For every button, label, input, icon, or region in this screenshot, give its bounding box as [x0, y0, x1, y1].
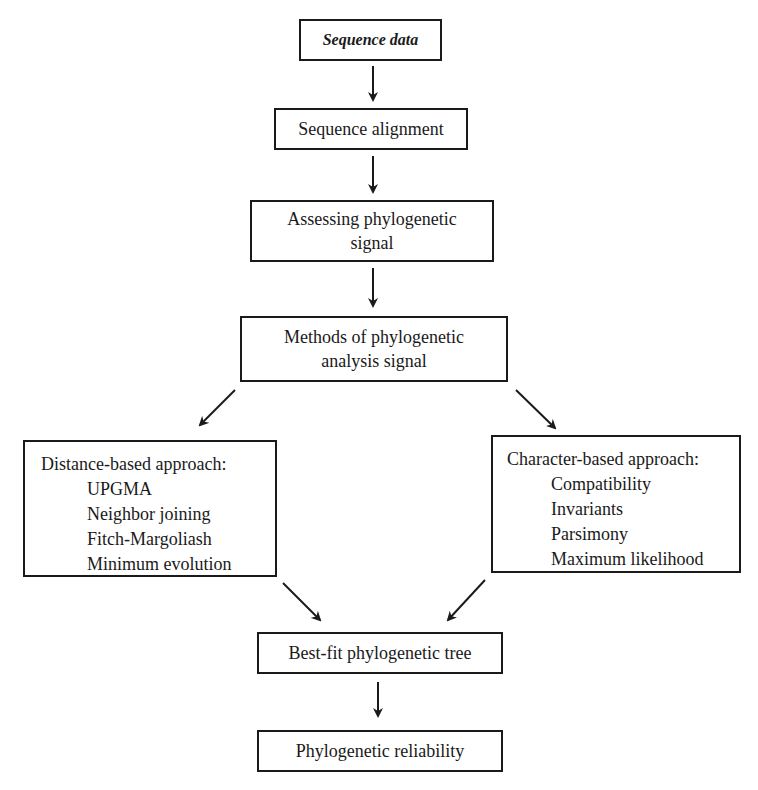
node-label: Phylogenetic reliability: [296, 739, 464, 763]
arrow-distance-to-bestfit: [283, 583, 320, 620]
node-best-fit-tree: Best-fit phylogenetic tree: [257, 632, 503, 674]
method-item: Neighbor joining: [87, 502, 232, 527]
node-label-line-1: Methods of phylogenetic: [284, 325, 464, 349]
node-label-line-2: signal: [351, 231, 394, 255]
node-distance-based: Distance-based approach: UPGMA Neighbor …: [23, 440, 277, 577]
arrow-character-to-bestfit: [448, 580, 485, 620]
arrow-methods-to-character: [516, 390, 555, 428]
node-title: Character-based approach:: [507, 447, 699, 472]
node-assessing-signal: Assessing phylogenetic signal: [250, 200, 494, 262]
node-character-based: Character-based approach: Compatibility …: [491, 435, 741, 573]
node-label-line-2: analysis signal: [321, 349, 427, 373]
node-methods: Methods of phylogenetic analysis signal: [240, 316, 508, 382]
node-title: Distance-based approach:: [41, 452, 226, 477]
method-item: Maximum likelihood: [551, 547, 704, 572]
method-item: Parsimony: [551, 522, 704, 547]
method-item: UPGMA: [87, 477, 232, 502]
method-item: Invariants: [551, 497, 704, 522]
method-item: Minimum evolution: [87, 552, 232, 577]
method-item: Fitch-Margoliash: [87, 527, 232, 552]
node-label: Sequence data: [323, 28, 419, 52]
node-label-line-1: Assessing phylogenetic: [287, 207, 456, 231]
node-sequence-alignment: Sequence alignment: [274, 108, 468, 150]
method-item: Compatibility: [551, 472, 704, 497]
node-label: Sequence alignment: [298, 117, 443, 141]
node-phylogenetic-reliability: Phylogenetic reliability: [257, 730, 503, 772]
node-sequence-data: Sequence data: [299, 19, 442, 61]
node-label: Best-fit phylogenetic tree: [289, 641, 472, 665]
arrow-methods-to-distance: [200, 390, 235, 425]
